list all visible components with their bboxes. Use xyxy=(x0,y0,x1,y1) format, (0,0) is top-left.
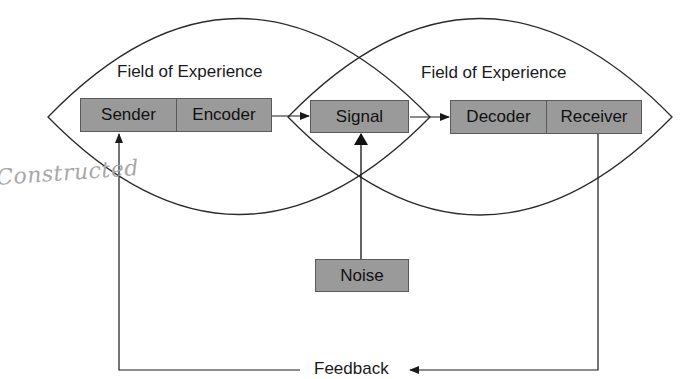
feedback-to-sender-line xyxy=(119,134,300,370)
noise-box: Noise xyxy=(315,259,409,292)
diagram-canvas xyxy=(0,0,687,379)
receiver-feedback-line xyxy=(410,133,598,370)
sender-field-label: Field of Experience xyxy=(117,62,263,82)
receiver-field-label: Field of Experience xyxy=(421,63,567,83)
signal-box: Signal xyxy=(310,100,409,133)
encoder-box: Encoder xyxy=(176,98,272,132)
receiver-box: Receiver xyxy=(546,100,642,134)
feedback-label: Feedback xyxy=(314,359,389,379)
decoder-box: Decoder xyxy=(450,100,547,134)
sender-box: Sender xyxy=(80,98,177,132)
